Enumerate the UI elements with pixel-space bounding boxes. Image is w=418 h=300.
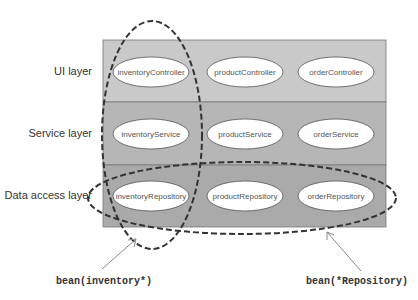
bean-inventory-service: inventoryService — [113, 119, 189, 149]
svg-text:orderController: orderController — [309, 68, 363, 77]
svg-text:orderRepository: orderRepository — [308, 192, 365, 201]
bean-product-service: productService — [207, 119, 283, 149]
svg-text:productController: productController — [214, 68, 276, 77]
svg-text:productService: productService — [218, 130, 272, 139]
svg-text:inventoryController: inventoryController — [117, 68, 184, 77]
inventory-pointcut-arrow — [102, 239, 136, 269]
service-layer-label: Service layer — [28, 127, 92, 139]
pointcut-diagram: UI layer Service layer Data access layer… — [0, 0, 418, 300]
svg-text:productRepository: productRepository — [213, 192, 278, 201]
bean-order-service: orderService — [298, 119, 374, 149]
bean-order-repository: orderRepository — [298, 181, 374, 211]
bean-order-controller: orderController — [298, 57, 374, 87]
bean-inventory-controller: inventoryController — [113, 57, 189, 87]
repository-pointcut-arrow — [327, 232, 361, 271]
data-access-layer-label: Data access layer — [5, 189, 93, 201]
svg-text:inventoryRepository: inventoryRepository — [116, 192, 187, 201]
svg-text:orderService: orderService — [313, 130, 359, 139]
bean-product-controller: productController — [207, 57, 283, 87]
ui-layer-label: UI layer — [54, 65, 92, 77]
inventory-pointcut-expression: bean(inventory*) — [56, 276, 152, 287]
repository-pointcut-expression: bean(*Repository) — [306, 276, 408, 287]
bean-inventory-repository: inventoryRepository — [113, 181, 189, 211]
bean-product-repository: productRepository — [207, 181, 283, 211]
svg-text:inventoryService: inventoryService — [121, 130, 181, 139]
